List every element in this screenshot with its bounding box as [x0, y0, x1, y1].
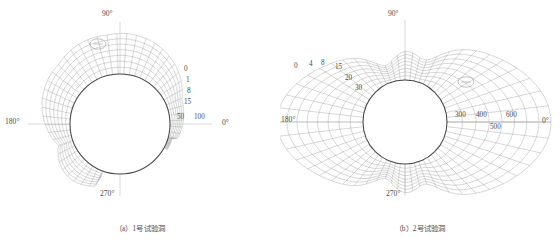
- angle-label-270-1: 270°: [100, 190, 114, 198]
- panel-caption-1: （a）1号试验洞: [0, 222, 280, 233]
- contour-label-2-20: 20: [345, 75, 352, 82]
- contour-label-1-1: 1: [186, 77, 190, 84]
- contour-label-1-100: 100: [194, 114, 205, 121]
- contour-label-2-300: 300: [455, 112, 466, 119]
- contour-label-2-500: 500: [490, 124, 501, 131]
- angle-label-270-2: 270°: [386, 190, 400, 198]
- contour-label-2-15: 15: [335, 64, 342, 71]
- contour-label-2-400: 400: [476, 112, 487, 119]
- contour-label-1-15: 15: [184, 99, 191, 106]
- contour-label-2-0: 0: [294, 63, 298, 70]
- tunnel-cross-section-1: [70, 74, 170, 174]
- contour-label-2-4: 4: [309, 61, 313, 68]
- contour-label-1-0: 0: [184, 66, 188, 73]
- angle-label-180-2: 180°: [281, 116, 295, 124]
- panel-caption-2: （b）2号试验洞: [280, 222, 560, 233]
- oval-dash-marker-2: [458, 77, 474, 87]
- contour-label-1-50: 50: [177, 114, 184, 121]
- contour-label-2-600: 600: [506, 112, 517, 119]
- angle-label-180-1: 180°: [5, 118, 19, 126]
- panel-tunnel-2: 90° 180° 270° 0° 0 4 8 15 20 30 300 400 …: [280, 0, 560, 239]
- tunnel-cross-section-2: [363, 80, 447, 164]
- figure-root: 90° 180° 270° 0° 0 1 8 15 50 100 （a）1号试验…: [0, 0, 560, 239]
- contour-label-1-8: 8: [187, 88, 191, 95]
- contour-label-2-8: 8: [321, 60, 325, 67]
- angle-label-90-2: 90°: [388, 10, 399, 18]
- angle-label-0-1: 0°: [222, 119, 229, 127]
- angle-label-0-2: 0°: [542, 117, 549, 125]
- polar-contour-plot-2: [280, 0, 560, 215]
- polar-contour-plot-1: [0, 0, 280, 215]
- angle-label-90-1: 90°: [102, 10, 113, 18]
- contour-label-2-30: 30: [355, 85, 362, 92]
- panel-tunnel-1: 90° 180° 270° 0° 0 1 8 15 50 100 （a）1号试验…: [0, 0, 280, 239]
